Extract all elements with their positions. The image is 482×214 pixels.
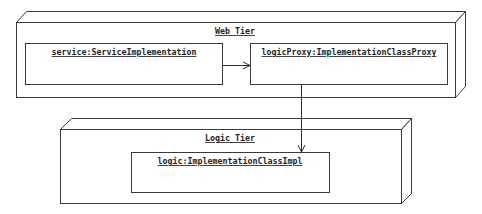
node-web-tier-top-face xyxy=(17,12,466,23)
node-logic-tier-top-face xyxy=(61,119,412,130)
instance-service[interactable]: service:ServiceImplementation xyxy=(26,44,223,85)
node-logic-tier-label: Logic Tier xyxy=(205,133,255,143)
node-web-tier-side-face xyxy=(456,12,466,98)
instance-logic-proxy[interactable]: logicProxy:ImplementationClassProxy xyxy=(251,44,448,85)
instance-logic[interactable]: logic:ImplementationClassImpl xyxy=(132,153,330,193)
instance-logic-proxy-label: logicProxy:ImplementationClassProxy xyxy=(262,47,437,57)
node-logic-tier-side-face xyxy=(402,119,412,204)
instance-logic-label: logic:ImplementationClassImpl xyxy=(158,156,303,166)
node-web-tier[interactable]: Web Tier service:ServiceImplementation l… xyxy=(17,12,466,98)
deployment-diagram: Web Tier service:ServiceImplementation l… xyxy=(0,0,482,214)
node-web-tier-label: Web Tier xyxy=(215,26,255,36)
node-logic-tier[interactable]: Logic Tier logic:ImplementationClassImpl xyxy=(61,119,412,204)
instance-service-label: service:ServiceImplementation xyxy=(52,47,197,57)
